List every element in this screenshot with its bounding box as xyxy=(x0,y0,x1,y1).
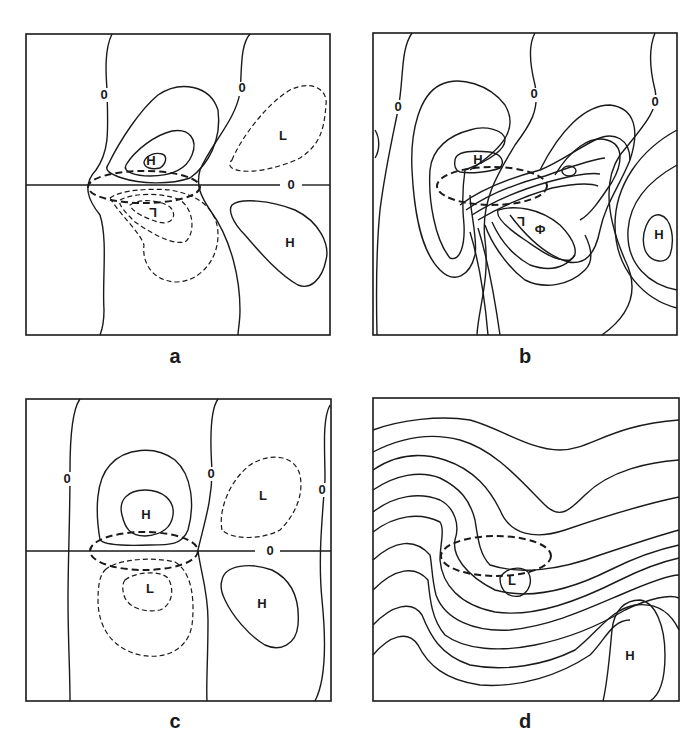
contour-figure: H L L H 0 0 0 a H xyxy=(0,0,700,756)
panel-a-zero-label-left: 0 xyxy=(100,87,107,102)
panel-a-high-label-lower-right: H xyxy=(285,235,294,250)
panel-c: H L L H 0 0 0 0 c xyxy=(26,399,331,732)
panel-c-zero-label-left: 0 xyxy=(63,471,70,486)
panel-c-zero-contour-right xyxy=(315,405,330,701)
panel-c-low-label-upper-right: L xyxy=(259,488,267,503)
panel-c-zero-contour-left xyxy=(68,399,80,701)
panel-b-caption: b xyxy=(519,345,531,367)
panel-a-caption: a xyxy=(169,345,181,367)
panel-a-high-contour-right xyxy=(231,201,327,286)
panel-a-low-contour-right xyxy=(230,86,326,172)
panel-b-high-label-right: H xyxy=(654,227,663,242)
panel-b-zero-label-left: 0 xyxy=(394,99,401,114)
panel-b-zero-contour-mid xyxy=(477,33,536,335)
panel-d: L H d xyxy=(373,398,679,732)
panel-c-zero-label-axis: 0 xyxy=(266,543,273,558)
panel-b-zero-contour-left xyxy=(376,33,412,335)
panel-c-zero-label-right: 0 xyxy=(318,482,325,497)
panel-a: H L L H 0 0 0 a xyxy=(26,34,330,367)
panel-d-high-label-lower-right: H xyxy=(625,648,634,663)
panel-a-zero-label-axis: 0 xyxy=(287,177,294,192)
panel-c-caption: c xyxy=(169,710,180,732)
panel-a-high-label-upper: H xyxy=(146,153,155,168)
panel-b-phi-symbol: Φ xyxy=(535,222,546,237)
panel-a-low-label-center: L xyxy=(149,205,157,220)
panel-c-low-label-center: L xyxy=(146,581,154,596)
panel-a-low-label-upper-right: L xyxy=(279,128,287,143)
panel-b-zero-label-mid: 0 xyxy=(530,86,537,101)
panel-c-low-contour-outer xyxy=(98,559,193,656)
panel-c-zero-label-mid: 0 xyxy=(207,466,214,481)
panel-b: H L Φ H 0 0 0 b xyxy=(373,33,677,367)
panel-b-zero-label-right: 0 xyxy=(651,94,658,109)
panel-d-contour-1 xyxy=(373,418,679,450)
panel-d-caption: d xyxy=(519,710,531,732)
panel-c-zero-contour-mid xyxy=(198,399,218,701)
panel-b-high-label-center: H xyxy=(473,152,482,167)
panel-c-high-label-lower-right: H xyxy=(257,596,266,611)
panel-c-frame xyxy=(26,399,331,701)
panel-b-low-label-center: L xyxy=(517,214,525,229)
panel-c-high-label-upper: H xyxy=(141,507,150,522)
panel-a-zero-label-mid: 0 xyxy=(238,80,245,95)
